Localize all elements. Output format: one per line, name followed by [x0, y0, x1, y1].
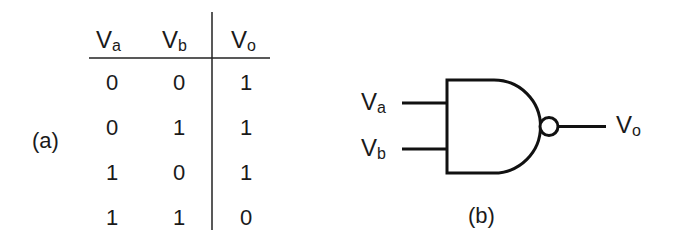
header-vb: Vb [162, 26, 187, 60]
cell-vb: 1 [159, 115, 199, 141]
cell-vo: 1 [226, 70, 266, 96]
table-caption: (a) [32, 128, 59, 154]
cell-vo: 1 [226, 160, 266, 186]
nand-gate-body-icon [447, 80, 541, 173]
gate-output-label: Vo [616, 111, 641, 145]
cell-va: 0 [92, 115, 132, 141]
cell-vo: 0 [226, 205, 266, 231]
cell-va: 1 [92, 160, 132, 186]
inversion-bubble-icon [540, 118, 558, 136]
cell-va: 1 [92, 205, 132, 231]
gate-input-a-label: Va [361, 88, 386, 122]
header-vo: Vo [231, 26, 256, 60]
cell-vo: 1 [226, 115, 266, 141]
gate-caption: (b) [468, 203, 495, 229]
cell-va: 0 [92, 70, 132, 96]
gate-input-b-label: Vb [361, 134, 386, 168]
cell-vb: 1 [159, 205, 199, 231]
cell-vb: 0 [159, 70, 199, 96]
header-va: Va [96, 26, 121, 60]
cell-vb: 0 [159, 160, 199, 186]
